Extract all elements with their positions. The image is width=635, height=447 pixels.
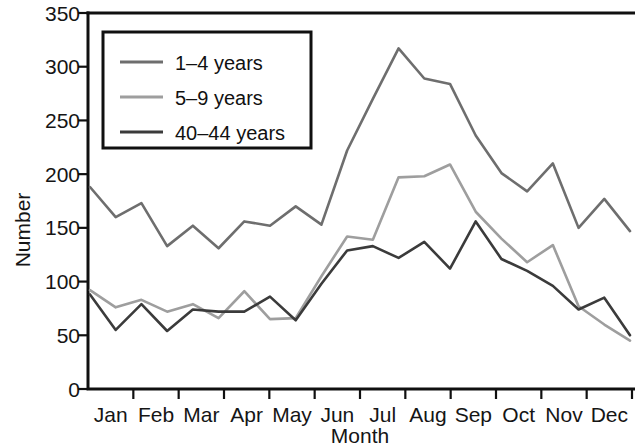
legend-label-1: 5–9 years bbox=[175, 87, 263, 109]
y-tick-label: 50 bbox=[57, 324, 80, 347]
y-axis-tick-labels: 050100150200250300350 bbox=[45, 2, 80, 401]
x-tick-label: Jul bbox=[369, 403, 396, 426]
legend-label-0: 1–4 years bbox=[175, 52, 263, 74]
legend-label-2: 40–44 years bbox=[175, 122, 285, 144]
y-tick-label: 350 bbox=[45, 2, 80, 25]
x-tick-label: May bbox=[272, 403, 312, 426]
x-tick-label: Aug bbox=[409, 403, 446, 426]
y-tick-label: 250 bbox=[45, 109, 80, 132]
y-tick-label: 100 bbox=[45, 270, 80, 293]
x-tick-label: Sep bbox=[455, 403, 492, 426]
x-tick-label: Dec bbox=[591, 403, 628, 426]
series-line-1 bbox=[90, 164, 630, 340]
x-axis-title: Month bbox=[331, 424, 389, 447]
y-tick-label: 200 bbox=[45, 163, 80, 186]
line-chart-svg: 050100150200250300350 JanFebMarAprMayJun… bbox=[0, 0, 635, 447]
x-tick-label: Apr bbox=[230, 403, 263, 426]
x-tick-label: Feb bbox=[138, 403, 174, 426]
legend: 1–4 years5–9 years40–44 years bbox=[103, 32, 311, 148]
x-tick-label: Jan bbox=[94, 403, 128, 426]
x-tick-label: Jun bbox=[320, 403, 354, 426]
x-tick-label: Mar bbox=[183, 403, 219, 426]
y-tick-label: 150 bbox=[45, 216, 80, 239]
chart-figure: 050100150200250300350 JanFebMarAprMayJun… bbox=[0, 0, 635, 447]
y-axis-title: Number bbox=[11, 193, 34, 268]
x-axis-tick-labels: JanFebMarAprMayJunJulAugSepOctNovDec bbox=[94, 403, 628, 426]
y-tick-label: 300 bbox=[45, 55, 80, 78]
x-tick-label: Nov bbox=[545, 403, 583, 426]
x-tick-label: Oct bbox=[502, 403, 535, 426]
